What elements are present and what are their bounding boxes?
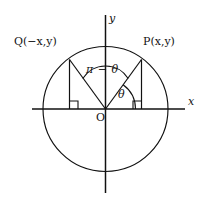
- x-axis-label-text: x: [188, 95, 194, 108]
- unit-circle-figure: Q(−x,y) P(x,y) y x O θ π − θ: [0, 0, 204, 203]
- point-label-p: P(x,y): [143, 36, 175, 47]
- y-axis-label-text: y: [109, 12, 115, 25]
- origin-label-text: O: [96, 111, 105, 124]
- supplement-angle-label: π − θ: [86, 64, 119, 75]
- theta-label: θ: [118, 89, 125, 100]
- figure-canvas: [0, 0, 204, 203]
- origin-label: O: [96, 112, 105, 123]
- x-axis-label: x: [188, 96, 194, 107]
- theta-label-text: θ: [118, 88, 125, 101]
- point-label-q-text: Q(−x,y): [14, 35, 57, 48]
- y-axis-label: y: [109, 13, 115, 24]
- point-label-p-text: P(x,y): [143, 35, 175, 48]
- point-label-q: Q(−x,y): [14, 36, 57, 47]
- supplement-angle-label-text: π − θ: [86, 63, 119, 76]
- right-angle-mark-q: [70, 101, 79, 109]
